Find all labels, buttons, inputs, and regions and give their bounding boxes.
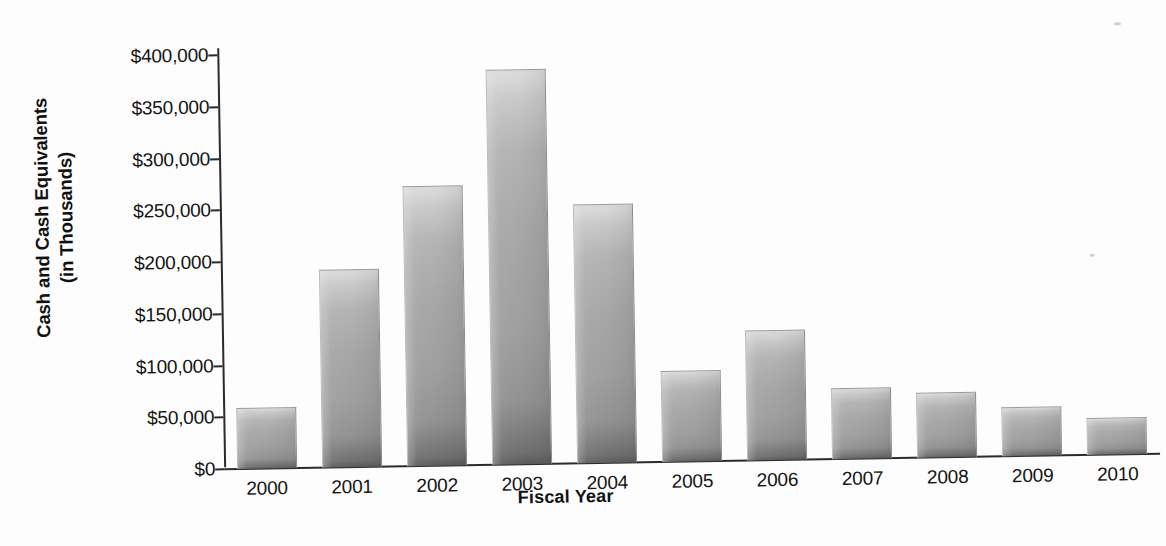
bar-group[interactable]: 2001	[302, 48, 394, 467]
bar-chart-figure: Cash and Cash Equivalents (in Thousands)…	[0, 0, 1166, 546]
x-axis-title: Fiscal Year	[1, 477, 1166, 517]
bar-group[interactable]: 2003	[472, 46, 564, 465]
bar-group[interactable]: 2009	[983, 37, 1075, 456]
bar[interactable]	[916, 392, 977, 458]
bar[interactable]	[1087, 417, 1148, 455]
bar[interactable]	[402, 185, 467, 466]
y-axis-title-line2: (in Thousands)	[52, 87, 80, 347]
bar-group[interactable]: 2005	[643, 43, 735, 462]
bar-group[interactable]: 2006	[728, 41, 820, 460]
y-axis-tick-mark	[210, 158, 219, 160]
plot-area: $0$50,000$100,000$150,000$200,000$250,00…	[217, 35, 1160, 470]
y-axis-tick-label: $150,000	[135, 303, 213, 326]
y-axis-tick-mark	[213, 313, 222, 315]
bar[interactable]	[236, 407, 297, 469]
y-axis-tick-mark	[211, 210, 220, 212]
bar[interactable]	[831, 387, 892, 459]
bar-group[interactable]: 2010	[1068, 36, 1160, 455]
y-axis-title-line1: Cash and Cash Equivalents	[28, 88, 56, 348]
y-axis-tick-mark	[212, 261, 221, 263]
y-axis-tick-label: $350,000	[131, 96, 209, 119]
bar-group[interactable]: 2008	[898, 39, 990, 458]
y-axis-tick-mark	[213, 365, 222, 367]
chart-page: Cash and Cash Equivalents (in Thousands)…	[0, 0, 1166, 546]
bar-group[interactable]: 2004	[558, 44, 650, 463]
bar-group[interactable]: 2007	[813, 40, 905, 459]
y-axis-tick-label: $100,000	[136, 355, 214, 378]
x-axis-title-text: Fiscal Year	[518, 486, 614, 508]
y-axis-tick-label: $400,000	[130, 44, 208, 67]
bar[interactable]	[319, 269, 382, 468]
bar[interactable]	[1002, 407, 1063, 457]
y-axis-tick-label: $300,000	[132, 148, 210, 171]
y-axis-tick-label: $50,000	[147, 407, 215, 430]
bar[interactable]	[573, 204, 637, 464]
y-axis-tick-mark	[208, 54, 217, 56]
bar[interactable]	[661, 370, 723, 462]
bar-group[interactable]: 2000	[217, 50, 309, 469]
scan-speck	[1114, 22, 1121, 25]
y-axis-title: Cash and Cash Equivalents (in Thousands)	[28, 87, 80, 348]
y-axis-tick-mark	[214, 416, 223, 418]
y-axis-tick-label: $200,000	[134, 251, 212, 274]
y-axis-tick-mark	[215, 468, 224, 470]
y-axis-tick-label: $0	[194, 458, 215, 480]
y-axis-tick-mark	[209, 106, 218, 108]
y-axis-tick-label: $250,000	[133, 200, 211, 223]
bar[interactable]	[485, 69, 552, 465]
scan-speck	[1090, 254, 1095, 257]
bar[interactable]	[745, 329, 807, 460]
bar-group[interactable]: 2002	[387, 47, 479, 466]
bar-series: 2000200120022003200420052006200720082009…	[217, 36, 1160, 469]
